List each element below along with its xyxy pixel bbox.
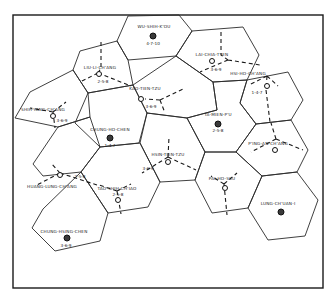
- center-lung-chuan-i: LUNG-CH'UAN-I: [261, 201, 296, 215]
- svg-text:KAO-TIEN-TZU: KAO-TIEN-TZU: [129, 86, 161, 91]
- hexagon-grid: [15, 15, 318, 251]
- center-wu-shih-kou: WU-SHIH-K'OU 4-7-10: [137, 24, 170, 46]
- svg-text:2-5-8: 2-5-8: [74, 174, 85, 179]
- svg-text:3-6-9: 3-6-9: [210, 67, 221, 72]
- center-kao-tien-tzu: KAO-TIEN-TZU 3-6-9: [129, 86, 161, 109]
- svg-text:2-5-8: 2-5-8: [97, 79, 108, 84]
- svg-text:LIU-LI-CH'ANG: LIU-LI-CH'ANG: [84, 65, 116, 70]
- svg-text:WU-SHIH-K'OU: WU-SHIH-K'OU: [137, 24, 170, 29]
- svg-text:1-4-7: 1-4-7: [104, 143, 115, 148]
- svg-text:PAI-HO-SSU: PAI-HO-SSU: [209, 176, 235, 181]
- svg-text:TA-MIEN-P'U: TA-MIEN-P'U: [203, 112, 232, 117]
- center-hsi-ho-chang: HSI-HO-CH'ANG 1-4-7: [230, 71, 269, 95]
- center-liu-li-chang: LIU-LI-CH'ANG 2-5-8: [84, 65, 116, 84]
- center-lai-chia-tien: LAI-CHIA-T'IEN 3-6-9: [196, 52, 229, 72]
- svg-text:3-6-9: 3-6-9: [56, 118, 67, 123]
- center-tao-shih-chiao: TAO-SHIH-CH'IAO 2-5-8: [96, 186, 137, 203]
- svg-text:3-6-9: 3-6-9: [60, 243, 71, 248]
- svg-text:2-5-8: 2-5-8: [212, 128, 223, 133]
- svg-text:2-5-8: 2-5-8: [112, 192, 123, 197]
- svg-text:CHUNG-HO-CHEN: CHUNG-HO-CHEN: [90, 127, 130, 132]
- center-hsin-tien-tzu: HSIN-TIEN-TZU 3-6-9: [142, 152, 184, 171]
- svg-text:LAI-CHIA-T'IEN: LAI-CHIA-T'IEN: [196, 52, 229, 57]
- svg-text:SHIH-YANG-CH'ANG: SHIH-YANG-CH'ANG: [21, 107, 65, 112]
- svg-text:3-6-9: 3-6-9: [142, 166, 153, 171]
- svg-text:CHUNG-HSING-CHEN: CHUNG-HSING-CHEN: [40, 229, 87, 234]
- svg-text:P'ING-AN-CH'ANG: P'ING-AN-CH'ANG: [248, 141, 288, 146]
- svg-text:LUNG-CH'UAN-I: LUNG-CH'UAN-I: [261, 201, 296, 206]
- svg-text:3-6-9: 3-6-9: [145, 104, 156, 109]
- svg-text:TAO-SHIH-CH'IAO: TAO-SHIH-CH'IAO: [96, 186, 137, 191]
- svg-text:HSI-HO-CH'ANG: HSI-HO-CH'ANG: [230, 71, 266, 76]
- svg-text:HUANG-LUNG-CH'ANG: HUANG-LUNG-CH'ANG: [27, 184, 77, 189]
- market-hexagon-diagram: WU-SHIH-K'OU 4-7-10 LAI-CHIA-T'IEN 3-6-9…: [0, 0, 333, 300]
- svg-text:1-4-7: 1-4-7: [251, 90, 262, 95]
- center-ta-mien-pu: TA-MIEN-P'U 2-5-8: [203, 112, 232, 133]
- svg-text:4-7-10: 4-7-10: [146, 41, 160, 46]
- svg-text:HSIN-TIEN-TZU: HSIN-TIEN-TZU: [151, 152, 184, 157]
